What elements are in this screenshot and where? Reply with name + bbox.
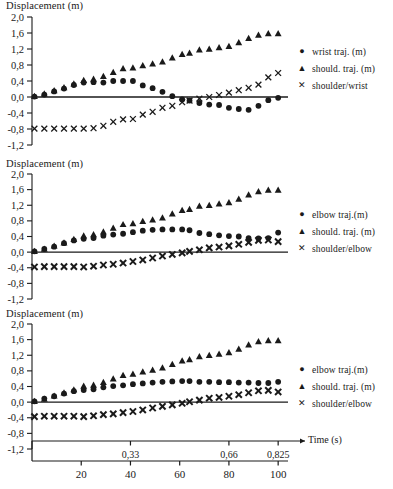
circle-marker-icon: ●	[292, 47, 312, 56]
chart-panel-wrist: Displacement (m) 2,01,61,20,80,40,0-0,4-…	[0, 0, 393, 158]
y-tick-label: 1,2	[11, 200, 24, 211]
triangle-marker-icon: ▲	[292, 227, 312, 236]
y-axis-title: Displacement (m)	[6, 158, 83, 169]
y-tick-label: 2,0	[11, 13, 24, 23]
y-tick-label: 1,6	[11, 184, 24, 195]
triangle-marker-icon: ▲	[292, 382, 312, 391]
legend-item: ● elbow traj.(m)	[292, 361, 375, 378]
cross-marker-icon: ✕	[292, 244, 312, 253]
triangle-marker-icon: ▲	[292, 64, 312, 73]
y-tick-label: 0,8	[11, 365, 24, 376]
legend-elbow-b: ● elbow traj.(m) ▲ should. traj. (m) ✕ s…	[292, 361, 375, 412]
time-tick-label: 0,33	[122, 449, 140, 460]
y-tick-label: -0,4	[7, 108, 24, 119]
legend-item-label: elbow traj.(m)	[312, 365, 368, 375]
series-triangle	[31, 337, 282, 404]
legend-item-label: shoulder/elbow	[312, 399, 372, 409]
y-tick-label: 1,2	[11, 44, 24, 55]
legend-item: ✕ shoulder/wrist	[292, 77, 375, 94]
y-tick-label: -0,4	[7, 262, 24, 273]
legend-item-label: should. traj. (m)	[312, 382, 375, 392]
y-tick-label: -1,2	[7, 140, 24, 151]
legend-item: ▲ should. traj. (m)	[292, 378, 375, 395]
x-axis-block: 0,330,660,82520406080100 Time (s)	[0, 433, 393, 489]
legend-item-label: should. traj. (m)	[312, 64, 375, 74]
circle-marker-icon: ●	[292, 365, 312, 374]
legend-item: ▲ should. traj. (m)	[292, 223, 375, 240]
legend-item-label: shoulder/wrist	[312, 81, 368, 91]
frame-tick-label: 40	[125, 468, 137, 480]
frame-tick-label: 60	[174, 468, 186, 480]
x-axis-title-time: Time (s)	[308, 434, 342, 445]
legend-item-label: wrist traj. (m)	[312, 47, 366, 57]
y-tick-label: 0,0	[11, 397, 24, 408]
legend-item: ● wrist traj. (m)	[292, 43, 375, 60]
y-tick-label: 0,4	[11, 231, 25, 242]
series-circle	[32, 78, 281, 113]
circle-marker-icon: ●	[292, 210, 312, 219]
y-tick-label: 0,4	[11, 381, 25, 392]
legend-item: ✕ shoulder/elbow	[292, 240, 375, 257]
y-tick-label: 0,8	[11, 215, 24, 226]
y-tick-label: 0,0	[11, 247, 24, 258]
cross-marker-icon: ✕	[292, 81, 312, 90]
frame-tick-label: 100	[270, 468, 287, 480]
series-triangle	[31, 30, 282, 99]
legend-item: ▲ should. traj. (m)	[292, 60, 375, 77]
y-tick-label: 0,0	[11, 92, 24, 103]
y-tick-label: 0,4	[11, 76, 25, 87]
y-tick-label: 1,6	[11, 28, 24, 39]
y-tick-label: 2,0	[11, 171, 24, 180]
series-circle	[32, 378, 281, 404]
series-circle	[32, 227, 281, 255]
y-tick-label: 0,8	[11, 60, 24, 71]
legend-item-label: should. traj. (m)	[312, 227, 375, 237]
y-tick-label: 1,2	[11, 350, 24, 361]
y-tick-label: 1,6	[11, 334, 24, 345]
legend-item-label: shoulder/elbow	[312, 244, 372, 254]
legend-item-label: elbow traj.(m)	[312, 210, 368, 220]
series-cross	[31, 387, 281, 419]
y-axis-title: Displacement (m)	[6, 0, 83, 11]
y-tick-label: -1,2	[7, 294, 24, 305]
legend-item: ✕ shoulder/elbow	[292, 395, 375, 412]
y-tick-label: -0,8	[7, 278, 24, 289]
series-triangle	[31, 187, 282, 255]
y-axis-title: Displacement (m)	[6, 308, 83, 319]
time-tick-label: 0,825	[267, 449, 290, 460]
y-tick-label: 2,0	[11, 321, 24, 330]
frame-tick-label: 80	[223, 468, 235, 480]
y-tick-label: -0,4	[7, 412, 24, 423]
legend-elbow-a: ● elbow traj.(m) ▲ should. traj. (m) ✕ s…	[292, 206, 375, 257]
series-cross	[31, 237, 281, 270]
cross-marker-icon: ✕	[292, 399, 312, 408]
legend-item: ● elbow traj.(m)	[292, 206, 375, 223]
series-cross	[32, 70, 281, 131]
legend-wrist: ● wrist traj. (m) ▲ should. traj. (m) ✕ …	[292, 43, 375, 94]
frame-tick-label: 20	[76, 468, 88, 480]
time-tick-label: 0,66	[220, 449, 238, 460]
y-tick-label: -0,8	[7, 124, 24, 135]
